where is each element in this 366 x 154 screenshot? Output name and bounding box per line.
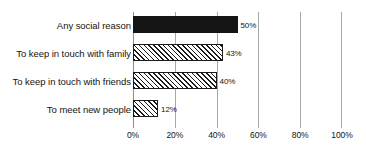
bar-any-social-reason (133, 16, 238, 33)
bar-keep-in-touch-family (133, 44, 223, 61)
xtick-label-0: 0% (127, 130, 139, 140)
category-label-row: To keep in touch with friends (0, 72, 133, 89)
bar-meet-new-people (133, 100, 158, 117)
xtick-label-60: 60% (250, 130, 267, 140)
xtick-label-40: 40% (208, 130, 225, 140)
xtick-label-80: 80% (292, 130, 309, 140)
bar-row: 40% (133, 72, 342, 89)
category-label-meet-new-people: To meet new people (47, 103, 131, 114)
plot-area: 50% 43% 40% 12% (133, 12, 342, 128)
bar-keep-in-touch-friends (133, 72, 217, 89)
category-label-row: To keep in touch with family (0, 44, 133, 61)
xtick-label-20: 20% (166, 130, 183, 140)
category-label-keep-in-touch-family: To keep in touch with family (16, 47, 131, 58)
bar-row: 12% (133, 100, 342, 117)
category-label-any-social-reason: Any social reason (57, 19, 131, 30)
bar-chart: 50% 43% 40% 12% Any social reason To kee… (0, 0, 366, 154)
category-label-row: To meet new people (0, 100, 133, 117)
bar-row: 50% (133, 16, 342, 33)
xtick-label-100: 100% (331, 130, 352, 140)
bar-value-label: 43% (223, 48, 242, 57)
bar-value-label: 50% (238, 20, 257, 29)
bar-value-label: 40% (217, 76, 236, 85)
category-label-keep-in-touch-friends: To keep in touch with friends (13, 75, 131, 86)
category-label-row: Any social reason (0, 16, 133, 33)
bar-value-label: 12% (158, 104, 177, 113)
bar-row: 43% (133, 44, 342, 61)
